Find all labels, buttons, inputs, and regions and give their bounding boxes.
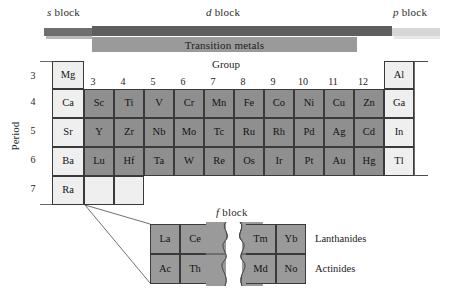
actinides-label: Actinides bbox=[315, 263, 355, 274]
element-cell-la[interactable]: La bbox=[150, 224, 180, 254]
lanthanides-label: Lanthanides bbox=[315, 233, 366, 244]
element-cell-tm[interactable]: Tm bbox=[246, 224, 276, 254]
periodic-blocks-diagram: s block d block p block Transition metal… bbox=[0, 0, 450, 301]
f-block-left-partial-cell-top bbox=[210, 224, 226, 254]
element-cell-md[interactable]: Md bbox=[246, 254, 276, 284]
element-cell-yb[interactable]: Yb bbox=[276, 224, 306, 254]
element-cell-ac[interactable]: Ac bbox=[150, 254, 180, 284]
f-block-left-partial-cell-bottom bbox=[210, 254, 226, 284]
element-cell-ce[interactable]: Ce bbox=[180, 224, 210, 254]
element-cell-th[interactable]: Th bbox=[180, 254, 210, 284]
element-cell-no[interactable]: No bbox=[276, 254, 306, 284]
f-block-word: block bbox=[219, 206, 247, 218]
f-block-label: f block bbox=[216, 206, 248, 218]
